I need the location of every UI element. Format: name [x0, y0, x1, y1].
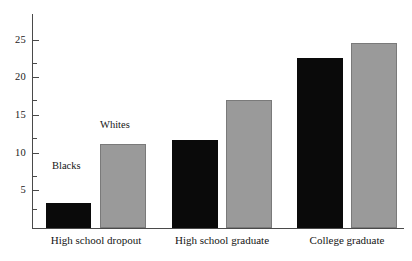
- category-label-high-school-dropout: High school dropout: [26, 233, 166, 247]
- bar-chart: 25 20 15 10 5 Blacks Whites High school …: [0, 0, 412, 261]
- bars-layer: [32, 14, 404, 228]
- y-axis-label-25: 25: [0, 35, 26, 45]
- bar-whites-high-school-graduate: [226, 100, 272, 228]
- category-label-college-graduate: College graduate: [277, 233, 412, 247]
- y-axis-label-20: 20: [0, 72, 26, 82]
- bar-blacks-high-school-dropout: [46, 203, 91, 228]
- category-label-high-school-graduate: High school graduate: [152, 233, 292, 247]
- bar-whites-high-school-dropout: [100, 144, 146, 228]
- series-annotation-blacks: Blacks: [52, 160, 81, 171]
- y-axis-label-15: 15: [0, 110, 26, 120]
- bar-whites-college-graduate: [351, 43, 397, 228]
- y-axis-label-10: 10: [0, 148, 26, 158]
- bar-blacks-college-graduate: [297, 58, 343, 228]
- category-labels: High school dropout High school graduate…: [32, 233, 404, 255]
- y-axis-label-5: 5: [0, 185, 26, 195]
- series-annotation-whites: Whites: [100, 119, 130, 130]
- bar-blacks-high-school-graduate: [172, 140, 218, 228]
- x-axis-line: [32, 228, 404, 229]
